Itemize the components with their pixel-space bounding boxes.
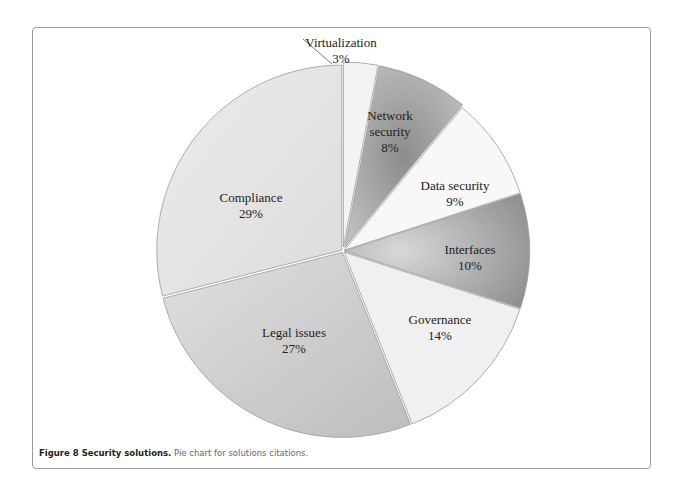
label-name-2: security — [367, 124, 413, 140]
label-pct: 3% — [305, 51, 376, 67]
label-name: Network — [367, 108, 413, 124]
label-pct: 8% — [367, 140, 413, 156]
label-pct: 10% — [444, 258, 495, 274]
slice-label-compliance: Compliance 29% — [220, 190, 283, 222]
label-name: Data security — [421, 178, 490, 194]
label-pct: 27% — [262, 341, 326, 357]
label-name: Governance — [409, 312, 472, 328]
slice-label-virtualization: Virtualization 3% — [305, 35, 376, 67]
label-name: Interfaces — [444, 242, 495, 258]
slice-label-governance: Governance 14% — [409, 312, 472, 344]
label-pct: 14% — [409, 328, 472, 344]
pie-chart — [0, 0, 684, 488]
caption-label: Figure 8 Security solutions. — [39, 448, 171, 458]
label-pct: 9% — [421, 194, 490, 210]
figure-caption: Figure 8 Security solutions. Pie chart f… — [39, 448, 308, 458]
caption-text: Pie chart for solutions citations. — [171, 448, 308, 458]
slice-label-network-security: Network security 8% — [367, 108, 413, 156]
label-name: Legal issues — [262, 325, 326, 341]
slice-label-interfaces: Interfaces 10% — [444, 242, 495, 274]
label-pct: 29% — [220, 206, 283, 222]
label-name: Compliance — [220, 190, 283, 206]
slice-label-data-security: Data security 9% — [421, 178, 490, 210]
label-name: Virtualization — [305, 35, 376, 51]
slice-label-legal-issues: Legal issues 27% — [262, 325, 326, 357]
